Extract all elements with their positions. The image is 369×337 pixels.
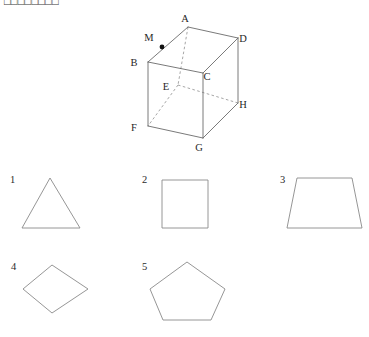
cube-edge-gh <box>203 103 238 138</box>
cube-solid-edges <box>148 27 238 138</box>
point-m-dot <box>160 45 165 50</box>
option-number-1: 1 <box>10 174 15 185</box>
vertex-label-c: C <box>203 71 210 82</box>
cube-hidden-edges <box>148 27 238 126</box>
vertex-label-m: M <box>144 32 154 43</box>
cube-edge-ae-hidden <box>178 27 188 85</box>
cube-edge-cd <box>203 38 238 73</box>
option-shape-trapezoid[interactable] <box>287 178 362 228</box>
cube-edge-ab <box>148 27 188 62</box>
cube-edge-eh-hidden <box>178 85 238 103</box>
answer-option-shapes[interactable] <box>22 178 362 320</box>
cube-edge-ad <box>188 27 238 38</box>
option-shape-rhombus[interactable] <box>23 265 88 313</box>
vertex-label-e: E <box>163 81 169 92</box>
cube-edge-bc <box>148 62 203 73</box>
option-number-2: 2 <box>142 174 147 185</box>
option-shape-pentagon[interactable] <box>150 262 225 320</box>
vertex-label-d: D <box>239 33 247 44</box>
option-number-3: 3 <box>280 174 285 185</box>
option-shape-triangle[interactable] <box>22 178 80 228</box>
point-m-marker: M <box>144 32 164 49</box>
geometry-figures: M ABCDEFGH 12345 <box>0 0 369 337</box>
option-number-4: 4 <box>11 261 17 272</box>
option-shape-square[interactable] <box>162 180 208 228</box>
vertex-label-h: H <box>239 99 247 110</box>
worksheet-canvas: □□□□□□□□ M ABCDEFGH 12345 <box>0 0 369 337</box>
cube-edge-fg <box>148 126 203 138</box>
option-number-5: 5 <box>142 261 147 272</box>
answer-option-numbers: 12345 <box>10 174 285 272</box>
vertex-label-a: A <box>181 13 189 24</box>
vertex-label-b: B <box>130 57 137 68</box>
vertex-label-f: F <box>131 122 137 133</box>
vertex-label-g: G <box>195 142 203 153</box>
